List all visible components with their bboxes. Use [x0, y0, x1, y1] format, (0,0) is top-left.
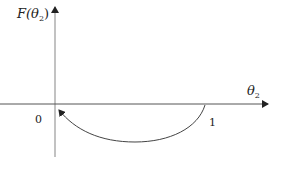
x-axis-label: θ2	[247, 83, 260, 100]
y-label-close: )	[44, 6, 49, 21]
x-label-sub: 2	[255, 91, 260, 100]
curve-arc	[59, 105, 205, 142]
tick-label-0: 0	[35, 113, 42, 126]
y-label-main: F(θ	[17, 6, 39, 21]
diagram-canvas	[0, 0, 283, 169]
tick-label-1: 1	[209, 116, 216, 129]
y-axis-label: F(θ2)	[17, 6, 49, 23]
x-label-main: θ	[247, 83, 255, 98]
